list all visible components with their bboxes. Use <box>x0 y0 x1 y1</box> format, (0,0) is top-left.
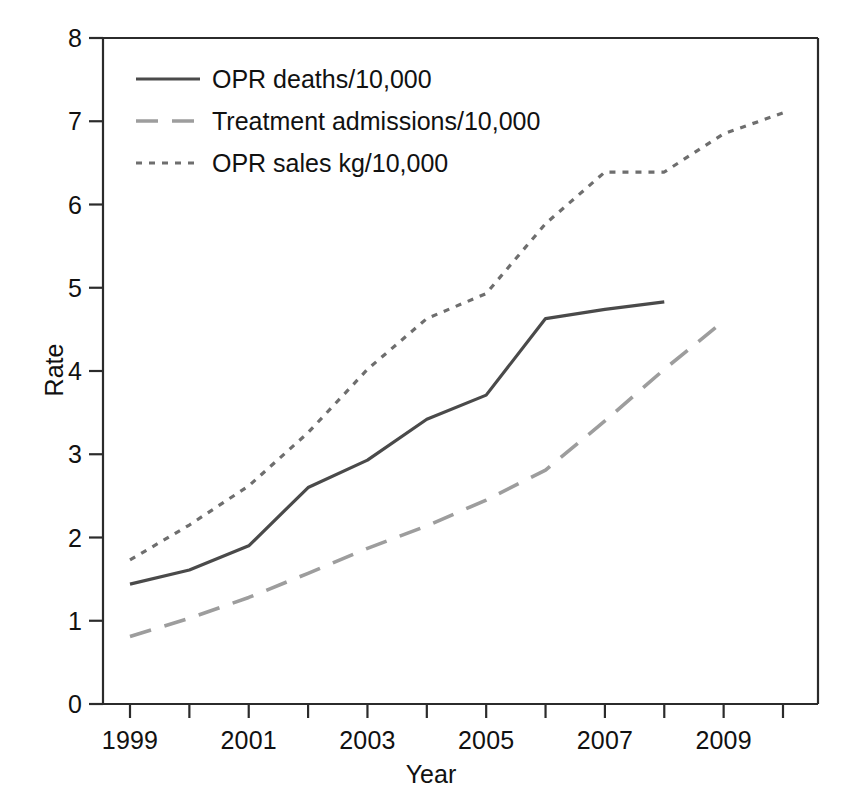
axis-lines <box>103 38 818 704</box>
tick-marks <box>89 38 783 718</box>
y-tick-label: 6 <box>40 190 82 219</box>
y-tick-label: 0 <box>40 690 82 719</box>
y-tick-label: 1 <box>40 606 82 635</box>
line-chart: 012345678 199920012003200520072009 OPR d… <box>0 0 862 808</box>
series-line-2 <box>130 113 783 560</box>
legend-item-label: OPR sales kg/10,000 <box>212 149 448 178</box>
x-tick-label: 2003 <box>339 726 395 755</box>
series-line-0 <box>130 302 664 584</box>
legend-item-label: OPR deaths/10,000 <box>212 65 432 94</box>
x-tick-label: 2009 <box>695 726 751 755</box>
y-tick-label: 2 <box>40 523 82 552</box>
legend-swatches <box>136 79 200 163</box>
y-tick-label: 8 <box>40 24 82 53</box>
y-tick-label: 7 <box>40 107 82 136</box>
legend-item-label: Treatment admissions/10,000 <box>212 107 540 136</box>
y-tick-label: 3 <box>40 440 82 469</box>
y-tick-label: 5 <box>40 273 82 302</box>
y-axis-title: Rate <box>40 344 69 397</box>
x-tick-label: 2005 <box>458 726 514 755</box>
series-line-1 <box>130 321 724 637</box>
x-tick-label: 2001 <box>221 726 277 755</box>
series-lines <box>130 113 783 637</box>
x-tick-label: 2007 <box>577 726 633 755</box>
x-tick-label: 1999 <box>102 726 158 755</box>
x-axis-title: Year <box>406 760 457 789</box>
